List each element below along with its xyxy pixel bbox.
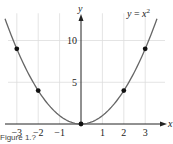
x-tick-label: 2 (121, 127, 126, 138)
figure-caption: Figure 1.? (0, 133, 36, 142)
data-point (36, 88, 41, 93)
data-point (143, 46, 148, 51)
grid-lines (8, 13, 165, 124)
y-axis-label: y (77, 3, 83, 14)
x-axis-arrow-icon (160, 122, 167, 127)
annotation-exponent: 2 (147, 7, 151, 15)
y-tick-label: 10 (67, 35, 77, 46)
data-point (14, 46, 19, 51)
axes (5, 14, 167, 127)
x-tick-label: 3 (143, 127, 148, 138)
y-tick-label: 5 (72, 77, 77, 88)
data-point (79, 122, 84, 127)
parabola-chart: −3−2−1123510 x y y = x2 (0, 0, 173, 144)
annotation-eq: = (131, 8, 142, 19)
x-tick-label: 1 (100, 127, 105, 138)
function-annotation: y = x2 (126, 7, 151, 19)
data-point (121, 88, 126, 93)
x-tick-label: −1 (54, 127, 65, 138)
x-axis-label: x (167, 118, 173, 129)
y-axis-arrow-icon (79, 14, 84, 21)
